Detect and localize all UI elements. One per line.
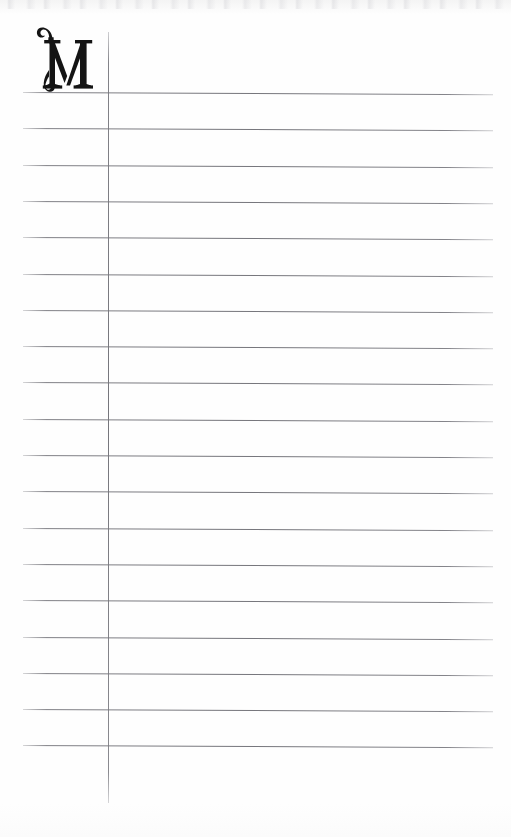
ruled-line-11 xyxy=(23,455,493,458)
ruled-line-16 xyxy=(23,637,493,640)
ruled-line-13 xyxy=(23,528,493,531)
initial-glyph-shape xyxy=(37,28,93,92)
vertical-margin-line xyxy=(108,32,109,803)
ruled-line-18 xyxy=(23,709,493,712)
ruled-line-12 xyxy=(23,491,493,494)
ruled-line-10 xyxy=(23,419,493,422)
ruled-line-7 xyxy=(23,310,493,313)
ruled-line-15 xyxy=(23,600,493,603)
ruled-line-2 xyxy=(23,128,493,131)
ruled-line-17 xyxy=(23,673,493,676)
ruled-line-6 xyxy=(23,274,493,277)
ruled-line-8 xyxy=(23,346,493,349)
ruled-line-3 xyxy=(23,165,493,168)
ruled-line-19 xyxy=(23,745,493,748)
ruled-line-9 xyxy=(23,382,493,385)
ruled-line-4 xyxy=(23,201,493,204)
ruled-line-14 xyxy=(23,564,493,567)
ruled-lines-layer xyxy=(0,0,511,837)
ruled-page xyxy=(0,0,511,837)
ornamental-initial-m xyxy=(36,22,96,98)
ruled-line-5 xyxy=(23,237,493,240)
